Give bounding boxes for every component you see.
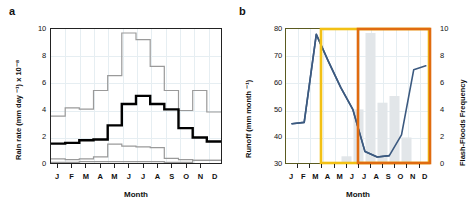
month-label: M — [107, 172, 121, 181]
month-label: M — [309, 172, 321, 181]
month-label: J — [358, 172, 370, 181]
panel-a-xtick — [85, 164, 86, 168]
panel-b-xtick — [406, 164, 407, 168]
panel-b-xtick — [346, 164, 347, 168]
month-label: J — [136, 172, 150, 181]
panel-b-ytick-right-6: 6 — [440, 78, 444, 87]
panel-b-xtick — [334, 164, 335, 168]
panel-b-ytick-right-0: 0 — [440, 159, 444, 168]
month-label: J — [285, 172, 297, 181]
panel-b-ytick-80: 80 — [258, 24, 282, 33]
panel-a-plot-area — [50, 28, 222, 164]
panel-a-series — [51, 29, 221, 163]
panel-b-xtick — [370, 164, 371, 168]
panel-b-y-axis-label-right: Flash-Floods Frequency — [458, 79, 467, 166]
panel-b-plot-area — [285, 28, 431, 164]
panel-b-ytick-right-10: 10 — [440, 24, 448, 33]
panel-b-xtick — [309, 164, 310, 168]
month-label: D — [419, 172, 431, 181]
month-label: N — [407, 172, 419, 181]
panel-b-xtick — [358, 164, 359, 168]
month-label: J — [346, 172, 358, 181]
panel-b-xtick — [394, 164, 395, 168]
panel-a-ytick-4: 4 — [26, 105, 46, 114]
panel-b-ytick-70: 70 — [258, 51, 282, 60]
panel-b-ytick-40: 40 — [258, 132, 282, 141]
panel-b-xtick — [382, 164, 383, 168]
panel-a-ytick-0: 0 — [26, 159, 46, 168]
panel-a-x-axis-label: Month — [50, 190, 222, 199]
panel-b-ytick-right-2: 2 — [440, 132, 444, 141]
month-label: A — [93, 172, 107, 181]
panel-a: a Rain rate (mm day ⁻¹) x 10⁻⁸ 10 8 6 4 … — [0, 0, 236, 213]
month-label: J — [50, 172, 64, 181]
month-label: D — [208, 172, 222, 181]
series-minimum — [51, 160, 221, 162]
panel-b-ytick-50: 50 — [258, 105, 282, 114]
month-label: A — [321, 172, 333, 181]
series-flash-floods-bars — [342, 33, 412, 163]
month-label: A — [150, 172, 164, 181]
panel-a-ytick-6: 6 — [26, 78, 46, 87]
panel-b-ytick-60: 60 — [258, 78, 282, 87]
panel-a-xtick — [71, 164, 72, 168]
month-label: O — [394, 172, 406, 181]
series-lower-percentile — [51, 144, 221, 160]
panel-a-xtick — [114, 164, 115, 168]
month-label: J — [122, 172, 136, 181]
panel-b-y-axis-label-left: Runoff (mm month ⁻¹) — [244, 80, 253, 158]
panel-a-ytick-10: 10 — [26, 24, 46, 33]
panel-b-ytick-30: 30 — [258, 159, 282, 168]
panel-b-xtick — [297, 164, 298, 168]
panel-a-xtick — [143, 164, 144, 168]
panel-a-xtick — [171, 164, 172, 168]
panel-a-ytick-2: 2 — [26, 132, 46, 141]
panel-a-y-axis-label: Rain rate (mm day ⁻¹) x 10⁻⁸ — [14, 60, 23, 160]
panel-a-xtick — [157, 164, 158, 168]
panel-b-xtick — [321, 164, 322, 168]
panel-b-series — [286, 29, 430, 163]
month-label: S — [165, 172, 179, 181]
series-median — [51, 96, 221, 144]
panel-b-letter: b — [239, 5, 246, 17]
panel-a-letter: a — [9, 5, 15, 17]
panel-b-month-labels: J F M A M J J A S O N D — [285, 172, 431, 181]
panel-b-ytick-right-8: 8 — [440, 51, 444, 60]
panel-b-ytick-right-4: 4 — [440, 105, 444, 114]
panel-a-xtick — [57, 164, 58, 168]
panel-a-xtick — [186, 164, 187, 168]
month-label: F — [64, 172, 78, 181]
month-label: S — [382, 172, 394, 181]
panel-a-xtick — [128, 164, 129, 168]
panel-b: b Runoff (mm month ⁻¹) Flash-Floods Freq… — [236, 0, 472, 213]
panel-a-xtick — [100, 164, 101, 168]
panel-b-x-axis-label: Month — [285, 190, 431, 199]
month-label: M — [334, 172, 346, 181]
month-label: M — [79, 172, 93, 181]
figure: a Rain rate (mm day ⁻¹) x 10⁻⁸ 10 8 6 4 … — [0, 0, 472, 213]
panel-a-ytick-8: 8 — [26, 51, 46, 60]
panel-a-xtick — [200, 164, 201, 168]
month-label: A — [370, 172, 382, 181]
month-label: N — [193, 172, 207, 181]
panel-b-xtick — [419, 164, 420, 168]
month-label: F — [297, 172, 309, 181]
month-label: O — [179, 172, 193, 181]
panel-a-month-labels: J F M A M J J A S O N D — [50, 172, 222, 181]
